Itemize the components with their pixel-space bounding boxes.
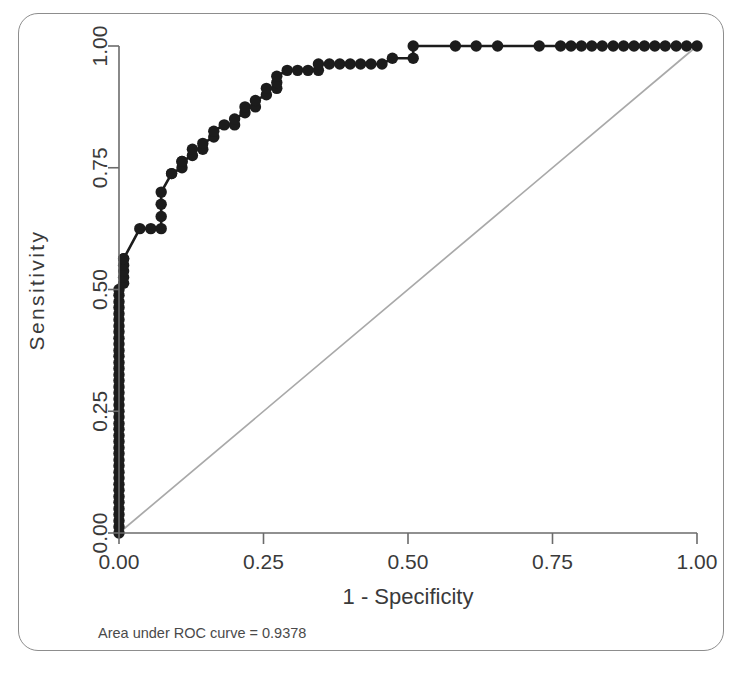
x-axis-title: 1 - Specificity xyxy=(343,584,474,609)
roc-data-point xyxy=(628,40,639,51)
roc-data-point xyxy=(145,223,156,234)
roc-data-point xyxy=(534,40,545,51)
roc-data-point xyxy=(365,58,376,69)
y-tick-label: 0.25 xyxy=(88,391,111,432)
roc-data-point xyxy=(208,126,219,137)
roc-chart: 0.000.250.500.751.00 0.000.250.500.751.0… xyxy=(0,0,744,674)
roc-data-point xyxy=(471,40,482,51)
roc-data-point xyxy=(334,58,345,69)
y-tick-label: 0.75 xyxy=(88,147,111,188)
roc-data-point xyxy=(155,211,166,222)
roc-data-point xyxy=(345,58,356,69)
roc-data-point xyxy=(670,40,681,51)
x-axis-ticks: 0.000.250.500.751.00 xyxy=(99,533,718,573)
roc-data-point xyxy=(408,40,419,51)
roc-data-point xyxy=(302,65,313,76)
roc-data-point xyxy=(313,58,324,69)
x-tick-label: 0.25 xyxy=(243,550,284,573)
roc-data-point xyxy=(239,101,250,112)
roc-data-point xyxy=(555,40,566,51)
roc-data-point xyxy=(576,40,587,51)
roc-data-point xyxy=(155,199,166,210)
roc-data-point xyxy=(250,95,261,106)
roc-data-point xyxy=(155,223,166,234)
roc-chart-svg: 0.000.250.500.751.00 0.000.250.500.751.0… xyxy=(0,0,744,674)
roc-data-point xyxy=(355,58,366,69)
roc-data-point xyxy=(229,113,240,124)
roc-data-point xyxy=(408,52,419,63)
roc-data-point xyxy=(155,186,166,197)
roc-data-point xyxy=(376,58,387,69)
roc-data-point xyxy=(607,40,618,51)
roc-data-point xyxy=(324,58,335,69)
x-tick-label: 1.00 xyxy=(677,550,718,573)
roc-data-point xyxy=(565,40,576,51)
y-tick-label: 0.50 xyxy=(88,269,111,310)
x-tick-label: 0.75 xyxy=(532,550,573,573)
auc-footnote: Area under ROC curve = 0.9378 xyxy=(98,625,306,641)
y-axis-title: Sensitivity xyxy=(25,230,48,351)
roc-data-point xyxy=(261,83,272,94)
x-tick-label: 0.50 xyxy=(388,550,429,573)
roc-data-point xyxy=(649,40,660,51)
roc-data-point xyxy=(134,223,145,234)
roc-data-point xyxy=(292,65,303,76)
roc-data-point xyxy=(597,40,608,51)
roc-data-point xyxy=(450,40,461,51)
roc-data-point xyxy=(681,40,692,51)
roc-data-point xyxy=(282,65,293,76)
roc-data-point xyxy=(176,156,187,167)
roc-data-point xyxy=(660,40,671,51)
reference-diagonal-line xyxy=(119,46,697,533)
roc-data-point xyxy=(219,119,230,130)
roc-data-point xyxy=(639,40,650,51)
roc-data-point xyxy=(166,168,177,179)
roc-data-point xyxy=(271,70,282,81)
roc-data-point xyxy=(691,40,702,51)
roc-data-point xyxy=(586,40,597,51)
roc-data-point xyxy=(187,144,198,155)
roc-data-point xyxy=(618,40,629,51)
y-tick-label: 1.00 xyxy=(88,26,111,67)
roc-data-point xyxy=(387,52,398,63)
roc-data-point xyxy=(492,40,503,51)
y-tick-label: 0.00 xyxy=(88,513,111,554)
roc-data-point xyxy=(197,138,208,149)
